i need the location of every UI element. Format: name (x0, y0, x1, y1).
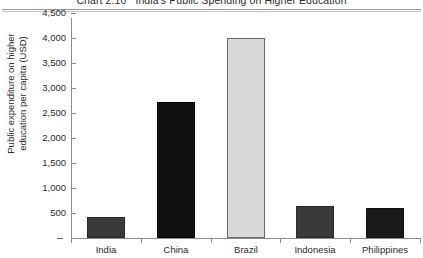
x-tick-label-india: India (71, 244, 141, 255)
x-tick-label-china: China (141, 244, 211, 255)
x-tick-label-indonesia: Indonesia (280, 244, 350, 255)
x-tick (350, 238, 351, 243)
bar-brazil (227, 38, 265, 238)
y-tick (71, 188, 76, 189)
y-tick-label: 3,000 (0, 82, 66, 93)
y-tick (71, 138, 76, 139)
y-tick-label: 4,500 (0, 7, 66, 18)
bar-china (157, 102, 195, 238)
y-tick (71, 38, 76, 39)
y-tick-label: 3,500 (0, 57, 66, 68)
chart-figure: Chart 2.10India's Public Spending on Hig… (0, 0, 423, 258)
y-axis-line (71, 18, 72, 239)
x-tick (280, 238, 281, 243)
y-tick (71, 163, 76, 164)
x-tick-label-brazil: Brazil (211, 244, 281, 255)
y-tick-label: 500 (0, 207, 66, 218)
x-tick (141, 238, 142, 243)
bar-india (87, 217, 125, 238)
y-tick-label: 2,000 (0, 132, 66, 143)
y-axis-zero-dash (57, 238, 63, 239)
y-tick-label: 1,500 (0, 157, 66, 168)
x-axis-line (71, 238, 420, 239)
x-tick (211, 238, 212, 243)
x-tick (420, 238, 421, 243)
x-tick (71, 238, 72, 243)
y-tick-label: 4,000 (0, 32, 66, 43)
y-tick (71, 113, 76, 114)
chart-title-number: Chart 2.10 (76, 0, 126, 6)
y-tick-label: 1,000 (0, 182, 66, 193)
x-tick-label-philippines: Philippines (350, 244, 420, 255)
bar-indonesia (296, 206, 334, 238)
chart-title-text: India's Public Spending on Higher Educat… (135, 0, 346, 6)
chart-title: Chart 2.10India's Public Spending on Hig… (0, 0, 423, 6)
y-tick (71, 63, 76, 64)
y-tick-label: 2,500 (0, 107, 66, 118)
y-tick (71, 88, 76, 89)
y-tick (71, 13, 76, 14)
y-tick (71, 213, 76, 214)
bar-philippines (366, 208, 404, 238)
